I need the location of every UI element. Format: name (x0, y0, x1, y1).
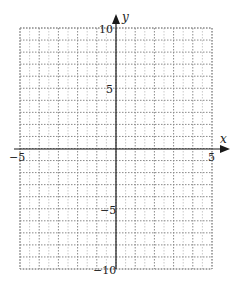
y-tick-neg5: −5 (100, 204, 116, 217)
x-axis-label: x (220, 132, 227, 146)
x-tick-5: 5 (208, 151, 215, 164)
y-tick-5: 5 (106, 83, 113, 96)
y-tick-10: 10 (99, 23, 113, 36)
x-axis-arrow-icon (220, 145, 230, 153)
coordinate-plane: y x 10 5 −5 −10 −5 5 (0, 0, 240, 283)
y-tick-neg10: −10 (93, 264, 116, 277)
x-tick-neg5: −5 (9, 151, 25, 164)
y-axis-label: y (121, 10, 129, 24)
y-axis-arrow-icon (112, 14, 120, 24)
